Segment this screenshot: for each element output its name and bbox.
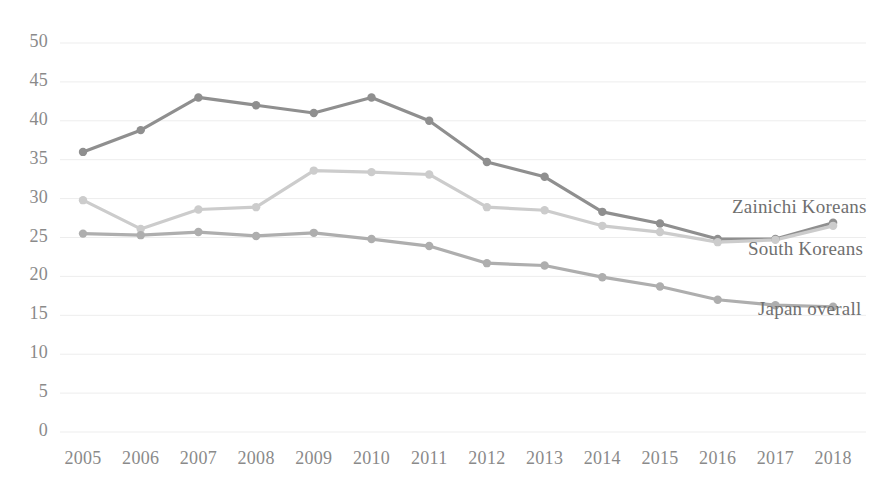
data-point xyxy=(79,196,87,204)
data-point xyxy=(137,126,145,134)
data-point xyxy=(483,203,491,211)
x-axis-tick-label: 2013 xyxy=(515,448,575,469)
data-point xyxy=(194,93,202,101)
data-point xyxy=(540,206,548,214)
data-point xyxy=(656,282,664,290)
x-axis-tick-label: 2008 xyxy=(226,448,286,469)
x-axis-tick-label: 2012 xyxy=(457,448,517,469)
data-point xyxy=(425,170,433,178)
data-point xyxy=(829,222,837,230)
x-axis-tick-label: 2009 xyxy=(284,448,344,469)
data-point xyxy=(540,261,548,269)
y-axis-tick-label: 35 xyxy=(8,148,48,169)
x-axis-tick-label: 2011 xyxy=(399,448,459,469)
x-axis-tick-label: 2006 xyxy=(111,448,171,469)
y-axis-tick-label: 50 xyxy=(8,31,48,52)
data-point xyxy=(252,101,260,109)
x-axis-tick-label: 2016 xyxy=(688,448,748,469)
data-point xyxy=(656,219,664,227)
y-axis-tick-label: 25 xyxy=(8,226,48,247)
data-point xyxy=(714,238,722,246)
y-axis-tick-label: 20 xyxy=(8,264,48,285)
data-point xyxy=(598,273,606,281)
series-lines xyxy=(83,97,833,306)
data-point xyxy=(79,229,87,237)
data-point xyxy=(310,109,318,117)
line-chart: 50454035302520151050 2005200620072008200… xyxy=(0,0,873,492)
y-axis-tick-label: 10 xyxy=(8,342,48,363)
y-axis-tick-label: 40 xyxy=(8,109,48,130)
data-point xyxy=(425,117,433,125)
series-markers xyxy=(79,93,838,311)
series-label-zainichi-koreans: Zainichi Koreans xyxy=(732,196,867,218)
x-axis-tick-label: 2014 xyxy=(572,448,632,469)
data-point xyxy=(367,168,375,176)
data-point xyxy=(598,208,606,216)
y-axis-tick-label: 45 xyxy=(8,70,48,91)
data-point xyxy=(598,222,606,230)
data-point xyxy=(367,235,375,243)
x-axis-tick-label: 2005 xyxy=(53,448,113,469)
data-point xyxy=(252,203,260,211)
y-axis-tick-label: 5 xyxy=(8,381,48,402)
y-axis-tick-label: 30 xyxy=(8,187,48,208)
data-point xyxy=(194,228,202,236)
data-point xyxy=(194,205,202,213)
chart-plot-area xyxy=(0,0,873,492)
series-label-south-koreans: South Koreans xyxy=(748,238,863,260)
y-axis-tick-label: 0 xyxy=(8,420,48,441)
data-point xyxy=(310,229,318,237)
data-point xyxy=(425,242,433,250)
data-point xyxy=(79,148,87,156)
data-point xyxy=(310,166,318,174)
x-axis-tick-label: 2007 xyxy=(168,448,228,469)
x-axis-tick-label: 2017 xyxy=(745,448,805,469)
y-axis-tick-label: 15 xyxy=(8,303,48,324)
x-axis-tick-label: 2018 xyxy=(803,448,863,469)
data-point xyxy=(137,231,145,239)
series-label-japan-overall: Japan overall xyxy=(758,298,861,320)
x-axis-tick-label: 2010 xyxy=(342,448,402,469)
series-line-0 xyxy=(83,97,833,239)
data-point xyxy=(656,228,664,236)
data-point xyxy=(714,296,722,304)
data-point xyxy=(252,232,260,240)
data-point xyxy=(540,173,548,181)
data-point xyxy=(367,93,375,101)
data-point xyxy=(483,259,491,267)
x-axis-tick-label: 2015 xyxy=(630,448,690,469)
data-point xyxy=(483,158,491,166)
